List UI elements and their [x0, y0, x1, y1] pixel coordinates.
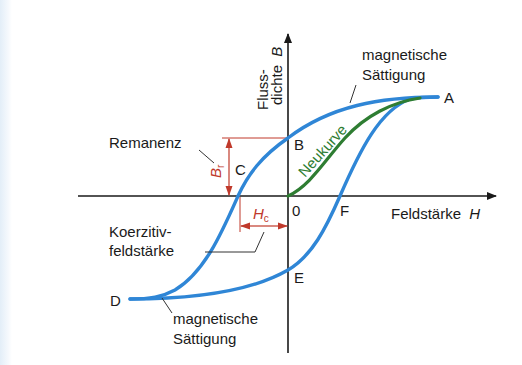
- coercive-label-line2: feldstärke: [109, 242, 174, 259]
- hc-symbol: Hc: [253, 205, 269, 224]
- point-b-label: B: [294, 136, 304, 153]
- x-axis-label: Feldstärke H: [391, 205, 480, 222]
- saturation-bottom-line1: magnetische: [173, 310, 258, 327]
- origin-label: 0: [292, 202, 300, 219]
- point-f-label: F: [340, 202, 349, 219]
- br-symbol: Br: [207, 164, 226, 178]
- coercive-label-line1: Koerzitiv-: [109, 223, 172, 240]
- y-axis-label-line2: dichte: [268, 65, 285, 105]
- x-axis-symbol: H: [469, 205, 480, 222]
- y-axis-symbol: B: [268, 47, 285, 57]
- hysteresis-diagram: Fluss- dichte B Feldstärke H 0 A B C D E…: [0, 0, 522, 365]
- saturation-bottom-line2: Sättigung: [173, 330, 236, 347]
- svg-text:Br: Br: [207, 164, 226, 178]
- svg-text:dichte B: dichte B: [268, 47, 285, 105]
- point-d-label: D: [110, 292, 121, 309]
- y-axis-label-2: dichte B: [268, 47, 285, 105]
- point-a-label: A: [444, 89, 454, 106]
- saturation-top-line1: magnetische: [362, 46, 447, 63]
- point-c-label: C: [235, 161, 246, 178]
- saturation-top-line2: Sättigung: [362, 66, 425, 83]
- remanence-label: Remanenz: [109, 134, 182, 151]
- point-e-label: E: [294, 269, 304, 286]
- hysteresis-loop: [130, 97, 438, 299]
- x-axis-label-text: Feldstärke: [391, 205, 461, 222]
- new-curve: [288, 98, 420, 196]
